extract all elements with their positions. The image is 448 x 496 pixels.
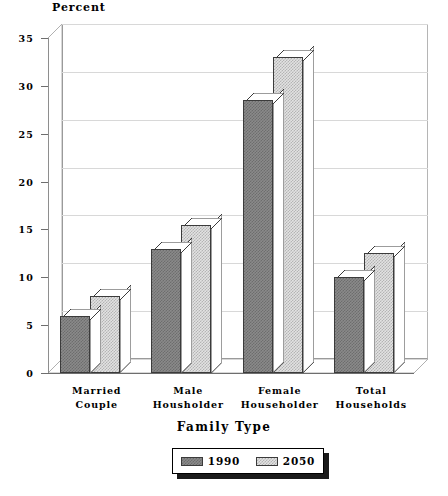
y-tick-label: 35	[4, 33, 34, 44]
bar-side-face	[394, 242, 405, 362]
legend-item-1990: 1990	[181, 455, 240, 467]
bar-1990-0	[60, 316, 90, 373]
bar-top-face	[60, 305, 90, 316]
legend-label-2050: 2050	[283, 455, 315, 467]
y-tick-label: 30	[4, 80, 34, 91]
bar-top-face	[243, 89, 273, 100]
bar-side-face	[273, 89, 284, 362]
y-tick-mark	[41, 277, 48, 278]
y-tick-mark	[41, 325, 48, 326]
bar-side-face	[181, 238, 192, 362]
bar-front-face	[334, 277, 364, 373]
y-tick-label: 20	[4, 176, 34, 187]
bar-top-face	[181, 214, 211, 225]
y-tick-label: 15	[4, 224, 34, 235]
y-axis-line	[48, 38, 49, 373]
x-category-label-line: Households	[296, 398, 446, 412]
x-category-label-line: Total	[296, 384, 446, 398]
bar-1990-2	[243, 100, 273, 373]
bar-front-face	[243, 100, 273, 373]
y-tick-label: 25	[4, 128, 34, 139]
y-tick-mark	[41, 38, 48, 39]
legend-swatch-1990-icon	[181, 457, 203, 466]
y-tick-mark	[41, 229, 48, 230]
x-category-label-3: TotalHouseholds	[296, 384, 446, 411]
plot-area	[48, 24, 428, 373]
bar-side-face	[211, 214, 222, 362]
bar-front-face	[151, 249, 181, 373]
gridline	[62, 24, 428, 25]
y-axis-title: Percent	[52, 1, 106, 14]
legend-label-1990: 1990	[208, 455, 240, 467]
y-tick-mark	[41, 182, 48, 183]
bar-chart: Percent 05101520253035 MarriedCoupleMale…	[0, 0, 448, 496]
x-axis-line	[48, 373, 414, 374]
bar-front-face	[60, 316, 90, 373]
y-tick-mark	[41, 86, 48, 87]
gridline	[62, 72, 428, 73]
bar-top-face	[334, 266, 364, 277]
y-tick-mark	[41, 134, 48, 135]
x-axis-title: Family Type	[0, 420, 448, 434]
y-tick-mark	[41, 373, 48, 374]
y-tick-label: 5	[4, 320, 34, 331]
legend: 1990 2050	[172, 448, 324, 474]
legend-item-2050: 2050	[256, 455, 315, 467]
bar-1990-1	[151, 249, 181, 373]
bar-1990-3	[334, 277, 364, 373]
bar-top-face	[364, 242, 394, 253]
legend-swatch-2050-icon	[256, 457, 278, 466]
bar-top-face	[90, 285, 120, 296]
bar-top-face	[273, 46, 303, 57]
bar-top-face	[151, 238, 181, 249]
bar-side-face	[303, 46, 314, 362]
y-tick-label: 10	[4, 272, 34, 283]
y-tick-label: 0	[4, 368, 34, 379]
